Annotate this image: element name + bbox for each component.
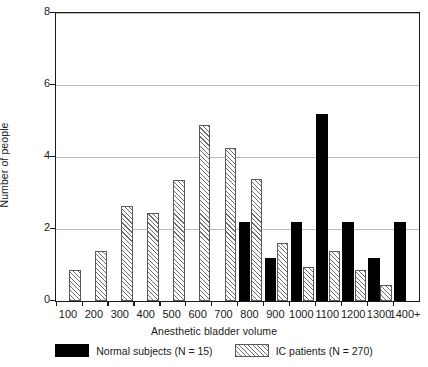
bar-ic-400 [147,213,159,301]
y-tick-label-6: 6 [24,77,50,89]
bar-normal-1200 [342,222,354,301]
x-tick-label-1400+: 1400+ [379,308,428,320]
x-tick-mark-300 [107,301,108,306]
bar-ic-500 [173,180,185,301]
bar-normal-1400+ [394,222,406,301]
x-tick-mark-900 [263,301,264,306]
gridline-8 [56,13,419,14]
bar-ic-1200 [355,270,367,301]
hatched-swatch [235,344,269,357]
bar-chart-figure: Number of people 02468 10020030040050060… [0,0,428,367]
y-tick-label-4: 4 [24,149,50,161]
legend-label-normal-subjects: Normal subjects (N = 15) [96,345,212,357]
x-tick-mark-500 [159,301,160,306]
x-tick-mark-700 [211,301,212,306]
y-tick-label-0: 0 [24,293,50,305]
x-tick-mark-1300 [367,301,368,306]
x-tick-mark-1200 [341,301,342,306]
legend-entry-normal-subjects: Normal subjects (N = 15) [55,344,212,357]
bar-ic-300 [121,206,133,301]
gridline-6 [56,85,419,86]
bar-ic-200 [95,251,107,301]
bar-normal-1100 [316,114,328,301]
bar-ic-100 [69,270,81,301]
x-tick-mark-1100 [315,301,316,306]
y-tick-label-8: 8 [24,5,50,17]
legend-label-ic-patients: IC patients (N = 270) [276,345,373,357]
bar-normal-1300 [368,258,380,301]
solid-black-swatch [55,344,89,357]
legend-entry-ic-patients: IC patients (N = 270) [235,344,373,357]
gridline-4 [56,157,419,158]
x-tick-mark-200 [82,301,83,306]
x-tick-mark-400 [133,301,134,306]
bar-normal-800 [239,222,251,301]
plot-area [55,12,420,302]
x-tick-mark-1000 [289,301,290,306]
y-tick-label-2: 2 [24,221,50,233]
bar-normal-1000 [291,222,303,301]
bar-ic-1100 [329,251,341,301]
bar-ic-800 [251,179,263,301]
x-tick-mark-100 [56,301,57,306]
gridline-2 [56,229,419,230]
bar-ic-700 [225,148,237,301]
y-axis-title: Number of people [0,105,10,225]
bar-ic-600 [199,125,211,301]
x-tick-mark-800 [237,301,238,306]
bar-normal-900 [265,258,277,301]
bar-ic-1300 [380,285,392,301]
chart-legend: Normal subjects (N = 15) IC patients (N … [0,344,428,357]
bar-ic-1000 [303,267,315,301]
x-tick-mark-600 [185,301,186,306]
x-tick-mark-1400+ [393,301,394,306]
bar-ic-900 [277,243,289,301]
x-axis-title: Anesthetic bladder volume [0,325,428,337]
